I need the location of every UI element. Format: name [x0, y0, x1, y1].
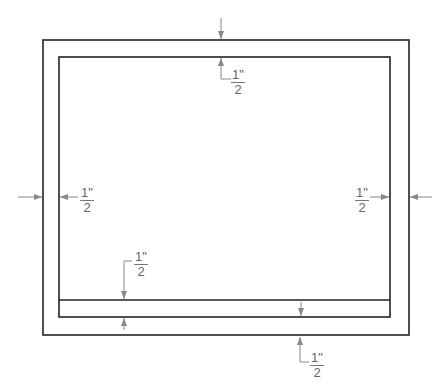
- bottom-margin-label: 1" 2: [310, 352, 324, 379]
- inner-border: [59, 57, 390, 317]
- top-inner-arrow-icon: [221, 58, 231, 79]
- margin-diagram: [0, 0, 447, 392]
- right-margin-label: 1" 2: [355, 187, 369, 214]
- strip-margin-label: 1" 2: [134, 251, 148, 278]
- left-margin-label: 1" 2: [80, 187, 94, 214]
- bottom-outer-arrow-icon: [300, 337, 309, 362]
- top-margin-label: 1" 2: [231, 69, 245, 96]
- strip-top-arrow-icon: [124, 261, 132, 299]
